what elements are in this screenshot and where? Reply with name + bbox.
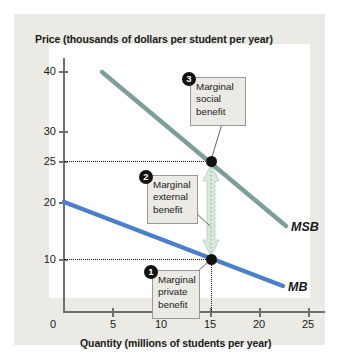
callout-2-line1: Marginal [153,179,193,191]
callout-3-line1: Marginal [196,81,241,93]
x-tick-20 [259,308,261,317]
callout-1-line1: Marginal [158,274,195,286]
callout-2-line2: external [153,191,193,203]
y-axis-line [63,58,65,312]
y-label-40: 40 [30,65,56,77]
series-label-mb: MB [288,280,307,294]
callout-badge-2: 2 [139,170,153,184]
y-label-20: 20 [30,196,56,208]
y-label-10: 10 [30,253,56,265]
y-label-30: 30 [30,125,56,137]
guide-line-quantity-15 [211,161,212,312]
callout-marginal-social-benefit: Marginal social benefit [190,77,246,126]
chart-panel: Price (thousands of dollars per student … [14,14,325,345]
callout-3-line3: benefit [196,106,241,118]
y-tick-20 [59,202,68,204]
callout-badge-1: 1 [144,265,158,279]
y-tick-30 [59,131,68,133]
x-label-10: 10 [148,318,174,330]
x-tick-25 [308,308,310,317]
x-label-15: 15 [197,318,223,330]
callout-1-line3: benefit [158,299,195,311]
x-axis-title: Quantity (millions of students per year) [80,337,271,349]
callout-marginal-external-benefit: Marginal external benefit [147,175,198,224]
guide-line-price-10 [64,259,212,260]
y-axis-title: Price (thousands of dollars per student … [35,33,273,45]
callout-badge-3: 3 [182,72,196,86]
guide-line-price-25 [64,161,212,162]
x-tick-5 [112,308,114,317]
y-label-25: 25 [30,155,56,167]
marker-msb-point [206,156,217,167]
callout-2-line3: benefit [153,204,193,216]
x-label-20: 20 [246,318,272,330]
x-label-25: 25 [295,318,321,330]
callout-3-line2: social [196,93,241,105]
y-label-0: 0 [30,318,56,330]
callout-marginal-private-benefit: Marginal private benefit [152,270,200,319]
y-tick-40 [59,71,68,73]
x-label-5: 5 [100,318,126,330]
marker-mb-point [206,254,217,265]
figure-container: Price (thousands of dollars per student … [0,0,339,359]
callout-1-line2: private [158,286,195,298]
series-label-msb: MSB [291,220,319,234]
